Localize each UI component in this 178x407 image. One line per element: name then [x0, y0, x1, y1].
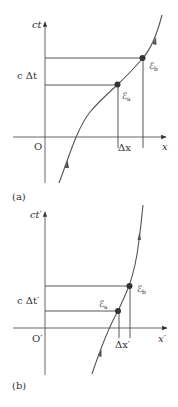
- worldline-direction-arrow-icon: [98, 349, 102, 357]
- event-dot-ea: [115, 308, 121, 314]
- x-axis-label: x: [162, 141, 168, 152]
- event-label-ea: ℰa: [99, 299, 108, 310]
- x-prime-axis-label: x′: [158, 333, 167, 344]
- space-interval-label: Δx: [118, 142, 131, 153]
- event-label-eb: ℰb: [137, 284, 146, 295]
- time-interval-label: c Δt: [17, 70, 37, 81]
- event-label-ea: ℰa: [122, 91, 131, 102]
- panel-a: ct x O c Δt Δx ℰa ℰb (a): [12, 15, 168, 202]
- panel-caption-b: (b): [12, 380, 26, 391]
- ct-axis-label: ct: [32, 19, 43, 30]
- event-label-eb: ℰb: [149, 61, 158, 72]
- origin-prime-label: O′: [32, 333, 43, 344]
- panel-b: ct′ x′ O′ c Δt′ Δx′ ℰa ℰb (b): [12, 205, 167, 391]
- ct-prime-axis-label: ct′: [30, 209, 43, 220]
- event-dot-ea: [115, 82, 121, 88]
- origin-label: O: [34, 141, 42, 152]
- space-interval-prime-label: Δx′: [115, 339, 131, 350]
- time-interval-prime-label: c Δt′: [17, 295, 40, 306]
- spacetime-diagram-figure: ct x O c Δt Δx ℰa ℰb (a) ct′ x′ O′ c: [0, 0, 178, 407]
- event-dot-eb: [127, 283, 133, 289]
- event-dot-eb: [140, 55, 146, 61]
- worldline-a: [59, 15, 162, 183]
- worldline-direction-arrow-icon: [138, 232, 142, 240]
- panel-caption-a: (a): [12, 191, 26, 202]
